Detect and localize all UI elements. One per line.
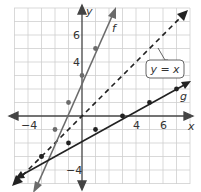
x-axis-label: x: [187, 120, 195, 133]
tick-x-neg4: −4: [21, 119, 37, 132]
tick-y-4: 4: [73, 56, 80, 69]
identity-label: y = x: [149, 63, 180, 76]
tick-x-6: 6: [160, 119, 167, 132]
f-label: f: [112, 22, 118, 35]
identity-callout: y = x: [146, 48, 184, 78]
tick-x-4: 4: [133, 119, 140, 132]
y-axis-label: y: [85, 5, 93, 18]
tick-y-6: 6: [73, 29, 80, 42]
g-label: g: [180, 90, 187, 103]
coordinate-plane: y = x y x f g −4 4 6 6 4 −4: [0, 0, 201, 192]
tick-y-neg4: −4: [66, 164, 82, 177]
